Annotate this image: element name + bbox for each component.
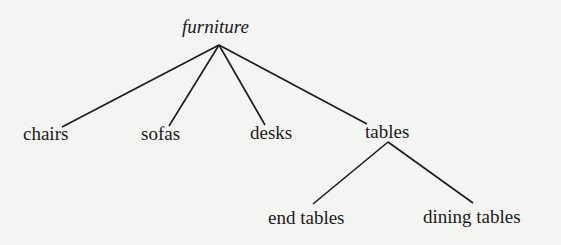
node-desks: desks — [250, 123, 292, 142]
node-tables: tables — [365, 122, 409, 141]
node-dining-tables: dining tables — [423, 207, 521, 226]
node-end-tables: end tables — [268, 208, 345, 227]
edge-tables-dining-tables — [388, 142, 473, 203]
node-furniture: furniture — [182, 17, 249, 36]
node-chairs: chairs — [23, 124, 68, 143]
edge-furniture-sofas — [169, 45, 219, 126]
edge-tables-end-tables — [313, 142, 388, 204]
node-sofas: sofas — [141, 124, 180, 143]
edge-furniture-chairs — [62, 45, 219, 127]
